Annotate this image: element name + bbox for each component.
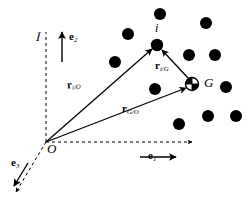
particle-dot [122,28,134,40]
particle-dot-i [151,39,163,51]
particle-dot [173,118,185,130]
center-of-mass-marker [186,78,199,91]
particle-dot [202,110,214,122]
origin-label-O: O [47,142,56,155]
particle-dot [209,49,221,61]
particle-dot [183,49,195,61]
particle-dot [149,83,161,95]
vector-r-i-over-O [46,49,152,142]
point-label-i: i [155,22,158,34]
basis-vector-e3-label: e3 [11,157,19,169]
axis-guide-e3 [16,142,46,192]
particle-dot [220,81,232,93]
vector-diagram-figure: I e2 e1 e3 O i G ri/O ri/G rG/O [0,0,250,203]
frame-label-script-I: I [36,30,40,43]
basis-vector-e2-label: e2 [69,31,77,43]
particle-dot [154,8,166,20]
vector-r-G-over-O [46,88,186,142]
point-label-G: G [204,76,213,89]
basis-vector-e1-label: e1 [148,150,156,162]
vector-label-r-G-over-O: rG/O [122,103,139,115]
vector-label-r-i-over-G: ri/G [155,60,169,72]
particle-dot [200,17,212,29]
particle-dot [230,110,242,122]
vector-label-r-i-over-O: ri/O [66,78,81,91]
particle-dot [109,56,121,68]
